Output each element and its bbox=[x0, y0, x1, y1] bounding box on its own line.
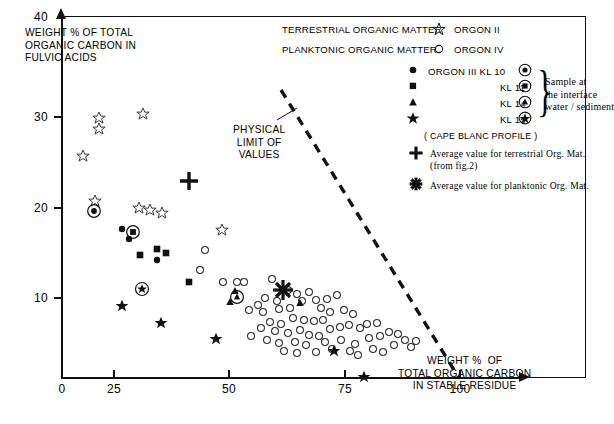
series-kl15-points bbox=[116, 300, 371, 383]
series-avg-planktonic-point bbox=[273, 280, 293, 300]
series-orgon2-points bbox=[77, 108, 228, 235]
series-avg-terrestrial-point bbox=[180, 172, 198, 190]
series-kl11-points bbox=[137, 246, 193, 286]
